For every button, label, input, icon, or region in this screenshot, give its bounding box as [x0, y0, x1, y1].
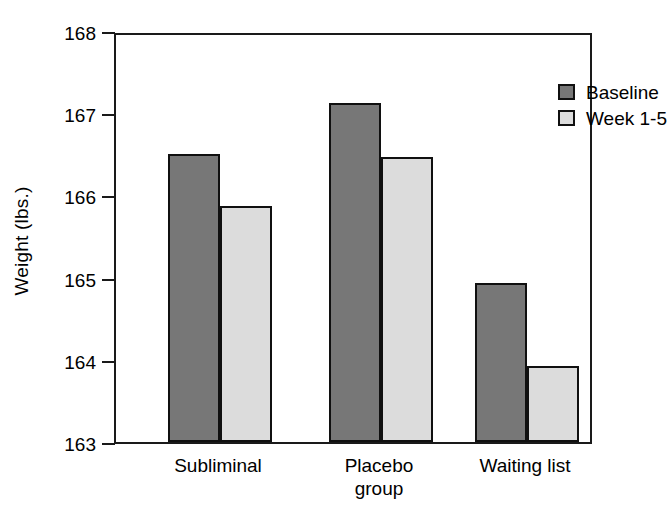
y-tick-label-166: 166 [44, 188, 96, 207]
bar-waiting-list-week-1-5 [527, 366, 579, 442]
chart-legend: Baseline Week 1-5 [558, 79, 667, 131]
y-tick-label-163: 163 [44, 435, 96, 454]
dark-gray-swatch [558, 84, 575, 100]
y-tick-label-165: 165 [44, 270, 96, 289]
bar-waiting-list-baseline [475, 283, 527, 442]
plot-area: Baseline Week 1-5 [114, 33, 592, 444]
y-tick-label-168: 168 [44, 24, 96, 43]
y-axis-title: Weight (lbs.) [11, 141, 33, 341]
legend-label-week-1-5: Week 1-5 [586, 109, 667, 128]
legend-item-week-1-5: Week 1-5 [558, 105, 667, 131]
y-tick-label-164: 164 [44, 352, 96, 371]
bar-subliminal-week-1-5 [220, 206, 272, 442]
bar-subliminal-baseline [168, 154, 220, 442]
legend-item-baseline: Baseline [558, 79, 667, 105]
light-gray-swatch [558, 110, 575, 126]
legend-label-baseline: Baseline [586, 83, 659, 102]
bar-placebo-group-baseline [329, 103, 381, 442]
x-axis-label-waiting-list: Waiting list [435, 454, 615, 477]
y-tick-label-167: 167 [44, 106, 96, 125]
x-axis-label-subliminal: Subliminal [128, 454, 308, 477]
bar-placebo-group-week-1-5 [381, 157, 433, 442]
